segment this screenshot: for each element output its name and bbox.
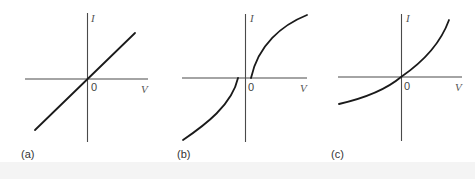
panel-b: I V 0 (b) (177, 12, 308, 160)
panel-c-y-label: I (405, 12, 411, 24)
panel-b-label: (b) (177, 148, 190, 160)
panel-c-x-label: V (455, 81, 463, 93)
panel-a-x-label: V (141, 83, 149, 95)
panel-b-y-label: I (249, 12, 255, 24)
panel-b-x-label: V (300, 82, 308, 94)
panel-a-origin-label: 0 (91, 81, 97, 93)
panel-b-origin-label: 0 (248, 81, 254, 93)
panel-c-origin-label: 0 (404, 80, 410, 92)
panel-b-curve-positive (251, 15, 307, 78)
panel-c-curve (339, 20, 449, 104)
panel-c: I V 0 (c) (331, 12, 463, 160)
panel-a: I V 0 (a) (21, 12, 149, 160)
panel-a-label: (a) (21, 148, 34, 160)
iv-characteristics-figure: I V 0 (a) I V 0 (b) I V 0 (c) (0, 0, 475, 179)
panel-c-label: (c) (331, 148, 344, 160)
panel-a-y-label: I (90, 12, 96, 24)
panel-a-curve (35, 33, 135, 130)
panel-b-curve-negative (183, 78, 238, 140)
